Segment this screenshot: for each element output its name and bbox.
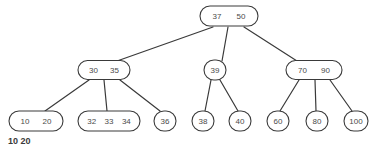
node-key: 50 xyxy=(237,12,246,21)
tree-edge xyxy=(330,80,352,111)
nodes-layer: 3750303539709010203233343638406080100 xyxy=(9,6,368,131)
tree-node[interactable]: 3035 xyxy=(78,61,130,80)
node-key: 60 xyxy=(274,117,283,126)
node-outline xyxy=(200,6,258,26)
tree-node[interactable]: 7090 xyxy=(286,61,342,80)
node-key: 37 xyxy=(213,12,222,21)
tree-node[interactable]: 3750 xyxy=(200,6,258,26)
node-key: 70 xyxy=(298,66,307,75)
tree-edge xyxy=(205,80,211,111)
node-key: 34 xyxy=(122,117,131,126)
tree-canvas: 3750303539709010203233343638406080100 10… xyxy=(0,0,375,147)
node-key: 80 xyxy=(313,117,322,126)
node-key: 40 xyxy=(236,117,245,126)
figure-caption: 10 20 xyxy=(8,136,31,146)
node-key: 30 xyxy=(89,66,98,75)
node-key: 36 xyxy=(161,117,170,126)
node-key: 100 xyxy=(349,117,363,126)
node-key: 20 xyxy=(43,117,52,126)
node-key: 10 xyxy=(21,117,30,126)
node-key: 32 xyxy=(87,117,96,126)
tree-edge xyxy=(315,80,316,111)
tree-edge xyxy=(222,27,228,61)
tree-node[interactable]: 38 xyxy=(192,111,214,131)
tree-node[interactable]: 40 xyxy=(229,111,251,131)
tree-edge xyxy=(117,27,213,61)
node-key: 35 xyxy=(110,66,119,75)
tree-edge xyxy=(280,80,299,111)
tree-node[interactable]: 323334 xyxy=(78,111,140,131)
node-outline xyxy=(9,111,63,131)
node-outline xyxy=(286,61,342,80)
tree-node[interactable]: 39 xyxy=(204,60,226,80)
tree-edge xyxy=(104,80,107,111)
node-key: 33 xyxy=(105,117,114,126)
tree-node[interactable]: 60 xyxy=(267,111,289,131)
node-outline xyxy=(78,61,130,80)
tree-node[interactable]: 100 xyxy=(344,111,368,131)
tree-node[interactable]: 1020 xyxy=(9,111,63,131)
b-tree-diagram: 3750303539709010203233343638406080100 10… xyxy=(0,0,375,147)
tree-edge xyxy=(244,27,297,61)
node-key: 38 xyxy=(199,117,208,126)
node-key: 39 xyxy=(211,66,220,75)
tree-edge xyxy=(45,80,89,111)
tree-edge xyxy=(120,80,160,111)
tree-node[interactable]: 36 xyxy=(154,111,176,131)
node-key: 90 xyxy=(321,66,330,75)
tree-edge xyxy=(220,80,238,111)
tree-node[interactable]: 80 xyxy=(306,111,328,131)
